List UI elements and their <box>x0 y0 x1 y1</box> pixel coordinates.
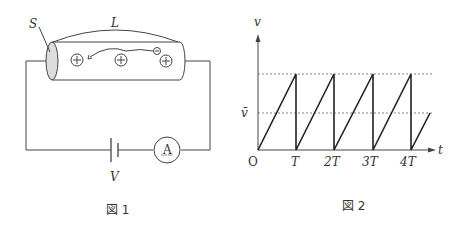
mean-label: v̄ <box>241 106 248 120</box>
figure-2-caption: 図 2 <box>342 199 365 213</box>
positive-ion <box>71 54 83 66</box>
x-axis-label: t <box>438 143 443 157</box>
label-s: S <box>29 17 37 31</box>
tick-3t: 3T <box>362 155 379 169</box>
tick-t: T <box>291 155 300 169</box>
s-pointer <box>39 27 50 52</box>
label-v: V <box>110 170 120 184</box>
origin-label: O <box>248 155 258 169</box>
ammeter-label: A <box>162 143 172 157</box>
tick-2t: 2T <box>323 155 341 169</box>
figure-1-caption: 図 1 <box>106 203 129 217</box>
tick-4t: 4T <box>399 155 417 169</box>
positive-ion <box>115 54 127 66</box>
label-l: L <box>110 16 119 30</box>
figure-1 <box>26 27 210 163</box>
velocity-sawtooth <box>258 74 430 150</box>
positive-ion <box>160 55 172 67</box>
electron-path <box>90 49 153 57</box>
conductor-end-cap <box>180 42 185 80</box>
y-axis-label: v <box>254 15 261 29</box>
electron <box>154 48 161 55</box>
figure-2 <box>256 34 437 153</box>
y-axis-arrow <box>256 34 261 42</box>
x-axis-arrow <box>428 148 436 153</box>
length-bracket <box>53 30 178 42</box>
